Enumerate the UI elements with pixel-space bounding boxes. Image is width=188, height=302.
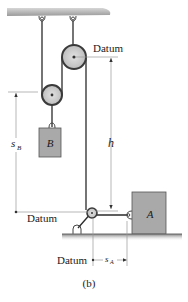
svg-text:s: s [11, 137, 15, 149]
s-b-label: s B [11, 137, 23, 152]
block-a-label: A [146, 208, 154, 220]
datum-left-label: Datum [27, 212, 57, 224]
h-label: h [108, 136, 114, 150]
svg-text:s: s [105, 254, 109, 264]
s-a-label: s A [105, 254, 114, 265]
figure-caption: (b) [83, 277, 96, 290]
block-a: A [132, 192, 166, 234]
block-b: B [39, 128, 61, 157]
svg-text:B: B [17, 144, 22, 152]
ground [62, 234, 182, 241]
datum-top-label: Datum [93, 42, 123, 54]
pulley-system-diagram: B A [0, 0, 188, 302]
ceiling [7, 8, 110, 16]
datum-bottom-label: Datum [57, 254, 87, 266]
arrowheads [14, 58, 127, 262]
ceiling-hook-right [70, 16, 76, 21]
ceiling-hook-left [39, 16, 45, 21]
svg-text:A: A [109, 259, 114, 265]
block-a-hook [127, 211, 132, 219]
floor-anchor [73, 225, 81, 234]
movable-pulley-b [42, 85, 62, 105]
floor-pulley [87, 208, 97, 218]
block-b-label: B [47, 137, 54, 149]
